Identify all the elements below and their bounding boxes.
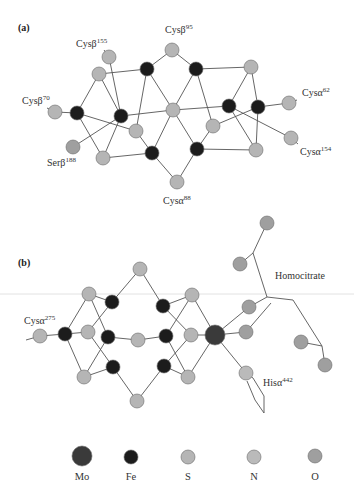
bond [103,153,152,158]
bond [121,110,173,116]
panel-b-femo-cofactor: (b)Cysα275HomocitrateHisα442 [18,216,332,413]
residue-label: Cysβ155 [76,37,108,49]
bond [196,69,213,126]
atom-fe-icon [101,330,115,344]
legend-item-fe: Fe [124,450,138,482]
panel-a-p-cluster: (a)Cysβ155Cysβ95Cysβ70Cysα62Cysα154Serβ1… [18,22,332,206]
legend-item-n: N [247,450,261,482]
bond [196,67,251,69]
legend-label: Mo [75,471,90,482]
panel-label: (a) [18,22,30,34]
atom-s-icon [249,143,263,157]
bond [197,149,256,150]
legend-s-icon [181,450,195,464]
atom-fe-icon [157,359,171,373]
atom-s-icon [81,325,95,339]
atom-s-icon [184,328,198,342]
atom-fe-icon [58,327,72,341]
residue-label: Cysβ70 [22,94,50,106]
bond [73,116,121,147]
atom-s-icon [33,329,47,343]
ligand-skeleton [249,297,325,365]
atom-fe-icon [106,360,120,374]
atom-s-icon [181,370,195,384]
atom-s-icon [170,175,184,189]
residue-label: Homocitrate [275,270,326,281]
atom-o-icon [233,257,247,271]
atom-fe-icon [114,109,128,123]
nitrogenase-cluster-diagram: (a)Cysβ155Cysβ95Cysβ70Cysα62Cysα154Serβ1… [0,0,354,495]
atom-fe-icon [251,100,265,114]
atom-s-icon [96,151,110,165]
residue-label: Cysα88 [163,194,191,206]
atom-fe-icon [189,62,203,76]
legend-item-o: O [308,449,322,482]
legend-item-s: S [181,450,195,482]
atom-s-icon [82,287,96,301]
residue-label: Cysα62 [302,86,330,98]
legend-fe-icon [124,450,138,464]
residue-label: Hisα442 [263,376,293,388]
atom-s-icon [102,50,116,64]
atom-fe-icon [70,106,84,120]
legend-item-mo: Mo [72,446,92,482]
atom-o-icon [294,335,308,349]
atom-o-icon [66,140,80,154]
atom-n-icon [239,366,253,380]
legend-label: O [311,471,319,482]
atom-o-icon [239,325,253,339]
atom-s-icon [48,105,62,119]
atom-fe-icon [156,299,170,313]
bond [109,57,121,116]
atom-o-icon [260,216,274,230]
atom-o-icon [242,300,256,314]
element-legend: MoFeSNO [72,446,322,482]
atom-fe-icon [145,146,159,160]
residue-label: Serβ188 [47,156,76,168]
bond [173,106,229,110]
atom-s-icon [244,60,258,74]
bond [136,69,147,131]
atom-s-icon [133,262,147,276]
atom-s-icon [185,288,199,302]
atom-s-icon [165,43,179,57]
panel-label: (b) [18,257,30,269]
atom-s-icon [92,67,106,81]
ligand-skeleton [253,223,267,297]
atom-fe-icon [140,62,154,76]
atom-o-icon [318,358,332,372]
legend-label: S [185,471,191,482]
atom-fe-icon [105,295,119,309]
residue-label: Cysβ95 [165,23,193,35]
atom-s-icon [282,96,296,110]
legend-label: N [250,471,258,482]
atom-s-icon [77,370,91,384]
atom-s-icon [206,119,220,133]
legend-o-icon [308,449,322,463]
atom-fe-icon [222,99,236,113]
legend-mo-icon [72,446,92,466]
atom-s-icon [130,394,144,408]
legend-label: Fe [126,471,137,482]
residue-label: Cysα154 [300,145,332,157]
atom-s-icon [166,103,180,117]
atom-s-icon [129,124,143,138]
atom-fe-icon [159,329,173,343]
residue-label: Cysα275 [24,314,56,326]
atom-s-icon [131,333,145,347]
legend-n-icon [247,450,261,464]
atom-s-icon [284,131,298,145]
atom-mo-icon [205,325,225,345]
atom-fe-icon [190,142,204,156]
